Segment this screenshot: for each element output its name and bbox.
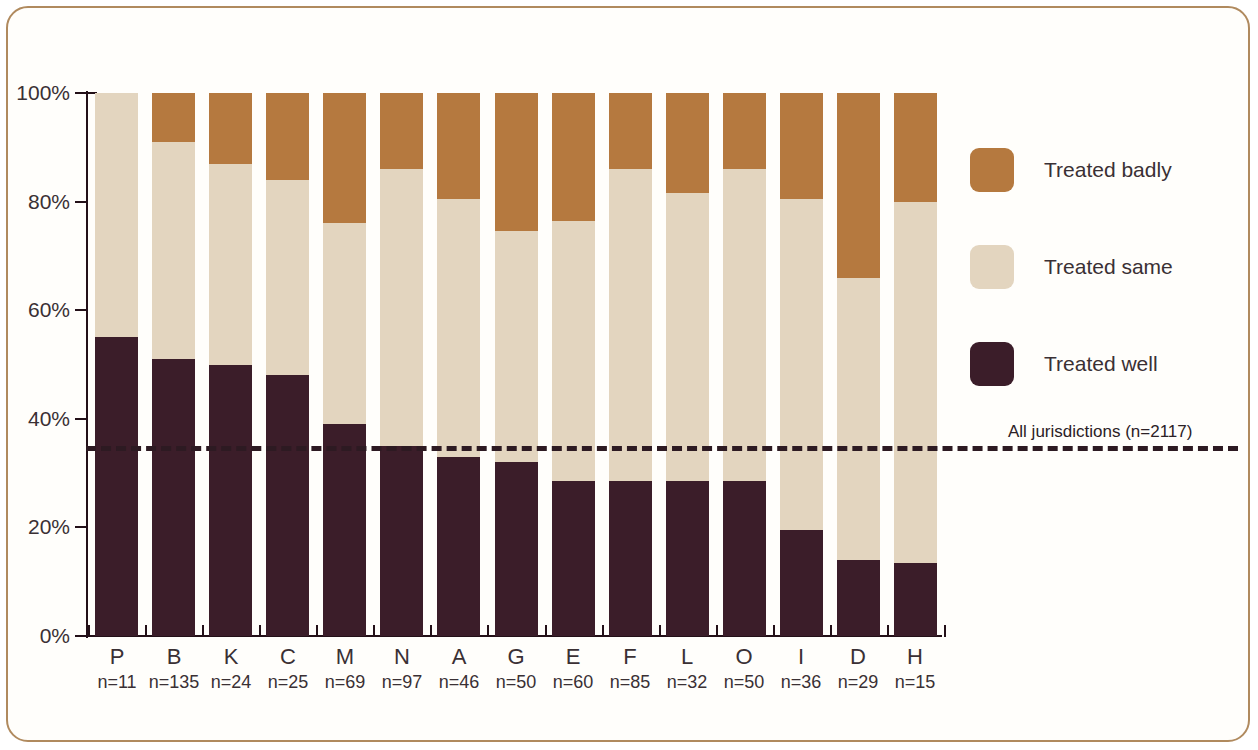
bar-segment[interactable]	[495, 462, 538, 636]
legend-item-treated-same[interactable]: Treated same	[970, 245, 1258, 289]
stacked-bar[interactable]	[894, 93, 937, 636]
bar-segment[interactable]	[437, 93, 480, 199]
bar-segment[interactable]	[780, 530, 823, 636]
stacked-bar[interactable]	[552, 93, 595, 636]
y-axis-tick-label: 60%	[28, 298, 70, 322]
bar-segment[interactable]	[723, 481, 766, 636]
bar-segment[interactable]	[666, 481, 709, 636]
bar-segment[interactable]	[894, 93, 937, 202]
x-axis-category-label: G	[507, 644, 524, 670]
bar-segment[interactable]	[323, 424, 366, 636]
x-axis-sample-size-label: n=36	[781, 672, 822, 693]
x-axis-sample-size-label: n=135	[149, 672, 200, 693]
x-axis-category-label: B	[167, 644, 182, 670]
bar-segment[interactable]	[780, 199, 823, 530]
bar-segment[interactable]	[380, 93, 423, 169]
stacked-bar[interactable]	[495, 93, 538, 636]
bar-segment[interactable]	[380, 169, 423, 446]
bar-segment[interactable]	[609, 169, 652, 481]
legend-swatch-treated-badly	[970, 148, 1014, 192]
y-axis-tick	[75, 418, 87, 420]
x-axis-sample-size-label: n=25	[268, 672, 309, 693]
stacked-bar[interactable]	[437, 93, 480, 636]
legend-label-treated-well: Treated well	[1044, 352, 1158, 376]
x-axis-sample-size-label: n=85	[610, 672, 651, 693]
stacked-bar[interactable]	[152, 93, 195, 636]
x-axis-sample-size-label: n=50	[496, 672, 537, 693]
bar-segment[interactable]	[209, 365, 252, 637]
bar-segment[interactable]	[380, 446, 423, 636]
bar-segment[interactable]	[152, 142, 195, 359]
y-axis-label-group: 0%20%40%60%80%100%	[8, 8, 70, 750]
x-axis-category-label: I	[798, 644, 804, 670]
x-axis-sample-size-label: n=97	[382, 672, 423, 693]
bar-segment[interactable]	[723, 169, 766, 481]
bar-segment[interactable]	[266, 93, 309, 180]
bar-segment[interactable]	[152, 93, 195, 142]
bar-segment[interactable]	[209, 93, 252, 164]
bar-segment[interactable]	[666, 93, 709, 193]
bar-segment[interactable]	[437, 457, 480, 636]
bar-segment[interactable]	[266, 180, 309, 375]
bar-segment[interactable]	[495, 231, 538, 462]
bar-segment[interactable]	[437, 199, 480, 457]
x-axis-category-label: K	[224, 644, 239, 670]
bar-segment[interactable]	[666, 193, 709, 481]
x-axis-sample-size-label: n=11	[97, 672, 136, 693]
stacked-bar[interactable]	[723, 93, 766, 636]
bar-segment[interactable]	[152, 359, 195, 636]
bar-segment[interactable]	[552, 221, 595, 482]
bar-segment[interactable]	[894, 563, 937, 636]
x-axis-tick	[373, 625, 375, 637]
bar-segment[interactable]	[780, 93, 823, 199]
legend-item-treated-well[interactable]: Treated well	[970, 342, 1258, 386]
y-axis-tick	[75, 635, 87, 637]
stacked-bar[interactable]	[380, 93, 423, 636]
x-axis-tick	[316, 625, 318, 637]
bar-segment[interactable]	[266, 375, 309, 636]
x-axis-category-label: E	[566, 644, 581, 670]
x-axis-category-label: P	[110, 644, 125, 670]
x-axis-sample-size-label: n=50	[724, 672, 765, 693]
legend-swatch-treated-well	[970, 342, 1014, 386]
x-axis-sample-size-label: n=29	[838, 672, 879, 693]
bar-segment[interactable]	[894, 202, 937, 563]
stacked-bar[interactable]	[666, 93, 709, 636]
stacked-bar[interactable]	[609, 93, 652, 636]
y-axis-tick-label: 40%	[28, 407, 70, 431]
y-axis-tick-label: 20%	[28, 515, 70, 539]
bar-segment[interactable]	[723, 93, 766, 169]
stacked-bar[interactable]	[266, 93, 309, 636]
y-axis-tick	[75, 309, 87, 311]
bar-segment[interactable]	[552, 93, 595, 221]
bar-segment[interactable]	[609, 93, 652, 169]
stacked-bar[interactable]	[209, 93, 252, 636]
stacked-bar[interactable]	[780, 93, 823, 636]
bar-segment[interactable]	[95, 337, 138, 636]
legend-item-treated-badly[interactable]: Treated badly	[970, 148, 1258, 192]
x-axis-tick	[545, 625, 547, 637]
bar-segment[interactable]	[323, 223, 366, 424]
x-axis-category-label: O	[735, 644, 752, 670]
stacked-bar[interactable]	[323, 93, 366, 636]
bar-segment[interactable]	[837, 93, 880, 278]
reference-line	[86, 446, 1238, 451]
x-axis-sample-size-label: n=24	[211, 672, 252, 693]
bar-segment[interactable]	[552, 481, 595, 636]
x-axis-tick	[430, 625, 432, 637]
stacked-bar[interactable]	[95, 93, 138, 636]
bar-segment[interactable]	[323, 93, 366, 223]
x-axis-tick	[944, 625, 946, 637]
bar-segment[interactable]	[495, 93, 538, 231]
x-axis-tick	[602, 625, 604, 637]
x-axis-tick	[259, 625, 261, 637]
bar-segment[interactable]	[837, 278, 880, 560]
bar-segment[interactable]	[95, 93, 138, 337]
x-axis-category-label: N	[394, 644, 410, 670]
x-axis-category-label: H	[907, 644, 923, 670]
stacked-bar[interactable]	[837, 93, 880, 636]
bar-segment[interactable]	[837, 560, 880, 636]
legend-swatch-treated-same	[970, 245, 1014, 289]
bar-segment[interactable]	[209, 164, 252, 365]
bar-segment[interactable]	[609, 481, 652, 636]
